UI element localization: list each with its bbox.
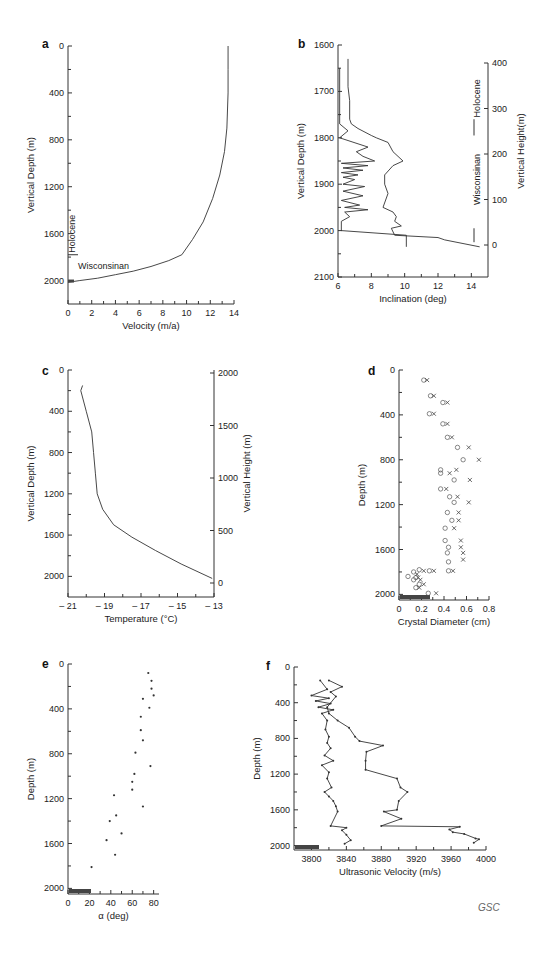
panel-f: f040080012001600200038003840388039203960… [251,659,496,877]
svg-text:1600: 1600 [44,229,64,239]
panel-a: a040080012001600200002468101214Velocity … [25,37,239,331]
figure-canvas: a040080012001600200002468101214Velocity … [0,0,543,955]
panel-label: f [266,659,271,673]
svg-text:0: 0 [59,41,64,51]
svg-text:2000: 2000 [218,368,238,378]
svg-text:1700: 1700 [314,86,334,96]
svg-text:2: 2 [89,308,94,318]
svg-text:60: 60 [127,898,137,908]
svg-text:Wisconsinan: Wisconsinan [472,154,482,205]
svg-text:1200: 1200 [375,500,395,510]
svg-text:Holocene: Holocene [67,215,77,253]
svg-text:8: 8 [369,281,374,291]
svg-text:100: 100 [492,195,507,205]
svg-text:1600: 1600 [375,545,395,555]
svg-text:6: 6 [137,308,142,318]
panel-label: d [368,364,375,378]
svg-text:– 13: – 13 [205,601,223,611]
svg-text:2100: 2100 [314,272,334,282]
svg-text:2000: 2000 [270,841,290,851]
svg-text:– 21: – 21 [59,601,77,611]
svg-text:Vertical Height(m): Vertical Height(m) [515,113,526,189]
panel-e: e0400800120016002000020406080α (deg)Dept… [25,657,159,921]
svg-text:4000: 4000 [476,854,496,864]
svg-text:1500: 1500 [218,421,238,431]
svg-text:0: 0 [65,898,70,908]
svg-text:800: 800 [49,749,64,759]
svg-text:2000: 2000 [314,226,334,236]
panel-label: b [298,37,305,51]
svg-text:500: 500 [218,526,233,536]
svg-text:2000: 2000 [44,571,64,581]
svg-text:0: 0 [59,659,64,669]
svg-text:400: 400 [49,704,64,714]
svg-text:800: 800 [275,733,290,743]
svg-text:Ultrasonic Velocity (m/s): Ultrasonic Velocity (m/s) [339,866,441,877]
svg-text:3880: 3880 [371,854,391,864]
svg-text:3800: 3800 [301,854,321,864]
svg-text:800: 800 [49,448,64,458]
svg-text:Holocene: Holocene [472,79,482,117]
svg-text:1200: 1200 [270,769,290,779]
svg-text:Depth (m): Depth (m) [251,737,262,779]
svg-text:400: 400 [49,88,64,98]
svg-text:3840: 3840 [336,854,356,864]
svg-text:300: 300 [492,104,507,114]
svg-text:0: 0 [390,365,395,375]
svg-text:2000: 2000 [375,589,395,599]
svg-text:1900: 1900 [314,179,334,189]
svg-text:800: 800 [49,135,64,145]
svg-text:Crystal Diameter (cm): Crystal Diameter (cm) [398,616,490,627]
svg-text:1200: 1200 [44,182,64,192]
svg-text:400: 400 [492,58,507,68]
svg-text:Depth (m): Depth (m) [25,758,36,800]
svg-text:1200: 1200 [44,489,64,499]
svg-text:10: 10 [400,281,410,291]
svg-text:6: 6 [335,281,340,291]
svg-text:2000: 2000 [44,276,64,286]
svg-text:1600: 1600 [314,40,334,50]
panel-b: b16001700180019002000210068101214Inclina… [295,37,526,304]
svg-text:0.6: 0.6 [460,604,473,614]
svg-text:Inclination (deg): Inclination (deg) [379,293,447,304]
svg-text:20: 20 [84,898,94,908]
svg-text:40: 40 [106,898,116,908]
svg-text:0: 0 [396,604,401,614]
panel-c: c0400800120016002000– 21– 19– 17– 15– 13… [25,364,252,624]
svg-text:4: 4 [113,308,118,318]
svg-text:0: 0 [65,308,70,318]
svg-text:– 15: – 15 [169,601,187,611]
svg-text:0: 0 [285,662,290,672]
svg-text:Velocity (m/a): Velocity (m/a) [122,320,180,331]
svg-text:Temperature (°C): Temperature (°C) [105,613,178,624]
svg-text:Vertical Height (m): Vertical Height (m) [241,434,252,512]
svg-text:14: 14 [229,308,239,318]
svg-text:200: 200 [492,149,507,159]
svg-text:14: 14 [466,281,476,291]
svg-text:Wisconsinan: Wisconsinan [78,261,129,271]
svg-text:Vertical Depth (m): Vertical Depth (m) [25,137,36,213]
svg-text:1600: 1600 [270,805,290,815]
svg-text:12: 12 [433,281,443,291]
svg-text:8: 8 [160,308,165,318]
svg-text:3960: 3960 [441,854,461,864]
svg-text:Depth (m): Depth (m) [356,464,367,506]
svg-text:80: 80 [149,898,159,908]
svg-text:0: 0 [492,240,497,250]
svg-text:12: 12 [205,308,215,318]
svg-text:Vertical Depth (m): Vertical Depth (m) [25,445,36,521]
svg-text:1000: 1000 [218,473,238,483]
panel-d: d040080012001600200000.20.40.60.8Crystal… [356,364,495,627]
svg-text:400: 400 [275,698,290,708]
panel-label: a [42,37,49,51]
svg-text:0.4: 0.4 [438,604,451,614]
svg-text:1200: 1200 [44,794,64,804]
svg-text:400: 400 [49,406,64,416]
svg-text:1600: 1600 [44,839,64,849]
svg-text:800: 800 [380,455,395,465]
svg-text:0: 0 [59,365,64,375]
svg-text:0.8: 0.8 [483,604,496,614]
svg-text:α (deg): α (deg) [98,910,128,921]
credit-label: GSC [478,902,500,913]
svg-text:0: 0 [218,578,223,588]
